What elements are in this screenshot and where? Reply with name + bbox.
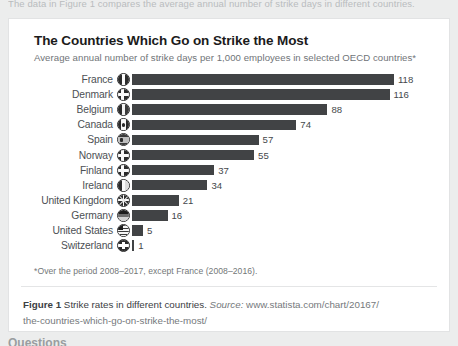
bar-row: United States5 — [21, 223, 439, 238]
bar-row-country-label: Belgium — [21, 104, 117, 115]
source-url-line1[interactable]: www.statista.com/chart/20167/ — [246, 299, 379, 310]
card-divider — [21, 286, 437, 287]
flag-finland-icon — [117, 164, 130, 177]
bar-row: Switzerland1 — [21, 238, 439, 253]
bar-row-country-label: Ireland — [21, 180, 117, 191]
bar-value-label: 74 — [300, 119, 311, 130]
source-label: Source: — [210, 299, 244, 310]
figure-card: The Countries Which Go on Strike the Mos… — [8, 18, 450, 332]
bar-track: 118 — [132, 72, 439, 87]
bar-value-label: 57 — [263, 134, 274, 145]
bar-track: 37 — [132, 163, 439, 178]
bar — [132, 225, 143, 236]
flag-switzerland-icon — [117, 239, 130, 252]
bar-row: Finland37 — [21, 163, 439, 178]
bar-row-country-label: United Kingdom — [21, 195, 117, 206]
bar-row: Canada74 — [21, 117, 439, 132]
bar — [132, 165, 214, 176]
figure-caption: Figure 1 Strike rates in different count… — [23, 297, 435, 329]
bar-row: United Kingdom21 — [21, 193, 439, 208]
chart-title: The Countries Which Go on Strike the Mos… — [34, 33, 439, 48]
bar — [132, 135, 259, 146]
bar-track: 88 — [132, 102, 439, 117]
intro-paragraph: The data in Figure 1 compares the averag… — [8, 0, 452, 9]
bar-row: France118 — [21, 72, 439, 87]
bar — [132, 240, 134, 251]
bar-track: 116 — [132, 87, 439, 102]
bar-row-country-label: Switzerland — [21, 240, 117, 251]
bar-track: 57 — [132, 132, 439, 147]
bar-row: Denmark116 — [21, 87, 439, 102]
bar-value-label: 1 — [138, 240, 143, 251]
bar-value-label: 116 — [394, 89, 409, 100]
bar-row: Belgium88 — [21, 102, 439, 117]
bar-row-country-label: Finland — [21, 165, 117, 176]
bar-track: 1 — [132, 238, 439, 253]
chart-footnote: *Over the period 2008–2017, except Franc… — [34, 266, 439, 276]
flag-france-icon — [117, 73, 130, 86]
bar-row-country-label: Denmark — [21, 89, 117, 100]
flag-spain-icon — [117, 133, 130, 146]
bar-row: Spain57 — [21, 132, 439, 147]
chart-area: The Countries Which Go on Strike the Mos… — [9, 19, 449, 276]
bar — [132, 195, 179, 206]
bar-row: Germany16 — [21, 208, 439, 223]
flag-germany-icon — [117, 209, 130, 222]
bar — [132, 74, 394, 85]
bar-row-country-label: Germany — [21, 210, 117, 221]
page-root: The data in Figure 1 compares the averag… — [0, 0, 458, 346]
bar-value-label: 88 — [331, 104, 342, 115]
bar — [132, 120, 296, 131]
bar-row: Norway55 — [21, 147, 439, 162]
bar — [132, 150, 254, 161]
bar-value-label: 34 — [211, 180, 222, 191]
flag-united-states-icon — [117, 224, 130, 237]
bar-row-country-label: France — [21, 74, 117, 85]
bar-row-country-label: Canada — [21, 119, 117, 130]
bar-value-label: 55 — [258, 150, 269, 161]
flag-norway-icon — [117, 149, 130, 162]
bar-track: 55 — [132, 147, 439, 162]
questions-heading: Questions — [8, 336, 67, 346]
flag-canada-icon — [117, 118, 130, 131]
bar-track: 16 — [132, 208, 439, 223]
bar-value-label: 5 — [147, 225, 152, 236]
caption-text: Strike rates in different countries. — [64, 299, 207, 310]
bar-track: 21 — [132, 193, 439, 208]
bar — [132, 210, 168, 221]
bar-row-country-label: United States — [21, 225, 117, 236]
flag-belgium-icon — [117, 103, 130, 116]
bar-value-label: 16 — [172, 210, 183, 221]
bar-track: 74 — [132, 117, 439, 132]
source-url-line2[interactable]: the-countries-which-go-on-strike-the-mos… — [23, 315, 207, 326]
bar-value-label: 118 — [398, 74, 413, 85]
bar — [132, 89, 390, 100]
flag-ireland-icon — [117, 179, 130, 192]
bar — [132, 180, 207, 191]
bar-row: Ireland34 — [21, 178, 439, 193]
bar-row-country-label: Spain — [21, 134, 117, 145]
figure-label: Figure 1 — [23, 299, 61, 310]
bar-value-label: 37 — [218, 165, 229, 176]
bar-track: 34 — [132, 178, 439, 193]
flag-united-kingdom-icon — [117, 194, 130, 207]
bar-track: 5 — [132, 223, 439, 238]
chart-subtitle: Average annual number of strike days per… — [34, 52, 439, 63]
bar-row-country-label: Norway — [21, 150, 117, 161]
bar-value-label: 21 — [183, 195, 194, 206]
bar-chart-rows: France118Denmark116Belgium88Canada74Spai… — [21, 72, 439, 253]
flag-denmark-icon — [117, 88, 130, 101]
bar — [132, 104, 327, 115]
